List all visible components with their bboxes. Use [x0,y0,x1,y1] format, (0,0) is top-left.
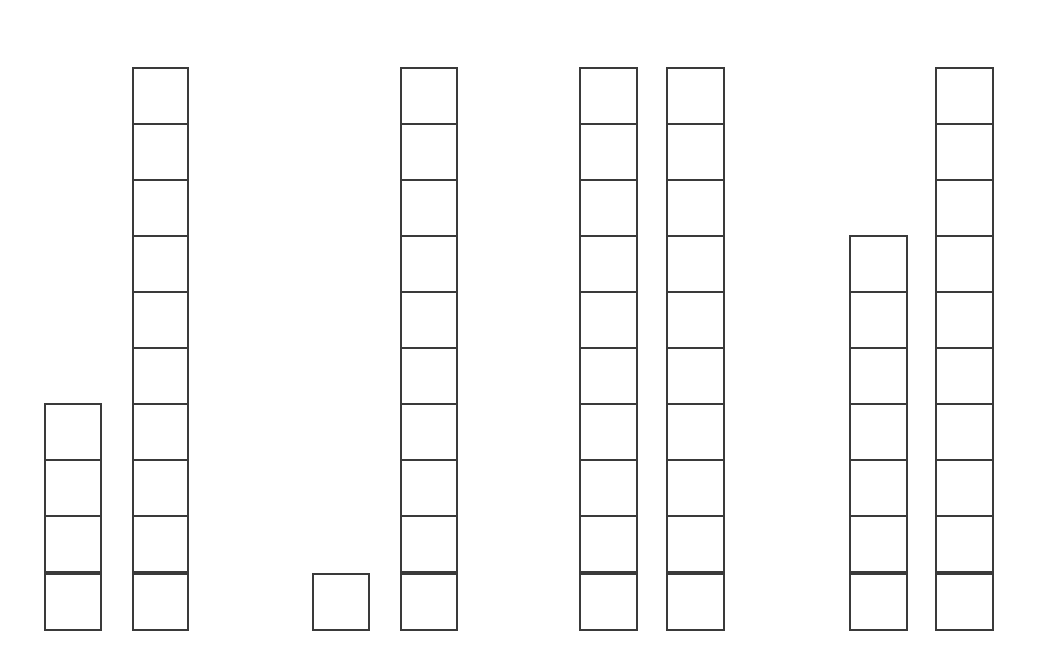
ten-rod [579,69,638,631]
unit-cube [132,573,189,631]
unit-stack [312,573,370,631]
unit-cube [44,403,102,461]
unit-cube [935,123,994,181]
unit-cube [666,573,725,631]
unit-cube [579,235,638,293]
unit-cube [849,291,908,349]
unit-cube [935,347,994,405]
unit-cube [666,235,725,293]
unit-stack [44,405,102,631]
unit-cube [579,459,638,517]
unit-cube [400,291,458,349]
unit-cube [849,515,908,573]
ten-rod [400,69,458,631]
unit-cube [132,67,189,125]
unit-cube [935,515,994,573]
ten-rod [666,69,725,631]
unit-cube [849,573,908,631]
unit-cube [666,67,725,125]
unit-cube [132,515,189,573]
unit-cube [44,459,102,517]
unit-cube [849,347,908,405]
unit-cube [400,459,458,517]
unit-cube [579,179,638,237]
unit-cube [132,123,189,181]
unit-cube [132,179,189,237]
unit-cube [579,573,638,631]
unit-cube [579,515,638,573]
unit-cube [579,403,638,461]
unit-cube [849,403,908,461]
ten-rod [132,69,189,631]
unit-cube [400,179,458,237]
unit-cube [400,515,458,573]
unit-cube [400,573,458,631]
unit-cube [579,291,638,349]
unit-stack [849,237,908,631]
unit-cube [666,459,725,517]
unit-cube [400,235,458,293]
unit-cube [935,235,994,293]
unit-cube [400,67,458,125]
unit-cube [132,291,189,349]
unit-cube [666,291,725,349]
unit-cube [400,123,458,181]
unit-cube [132,235,189,293]
unit-cube [666,347,725,405]
unit-cube [666,403,725,461]
unit-cube [849,459,908,517]
unit-cube [132,403,189,461]
unit-cube [666,179,725,237]
unit-cube [935,67,994,125]
unit-cube [935,573,994,631]
unit-cube [400,403,458,461]
unit-cube [935,291,994,349]
unit-cube [935,179,994,237]
unit-cube [666,123,725,181]
unit-cube [935,459,994,517]
unit-cube [132,347,189,405]
ten-rod [935,69,994,631]
unit-cube [579,123,638,181]
unit-cube [44,515,102,573]
unit-cube [132,459,189,517]
unit-cube [666,515,725,573]
unit-cube [312,573,370,631]
unit-cube [935,403,994,461]
unit-cube [849,235,908,293]
unit-cube [44,573,102,631]
unit-cube [579,347,638,405]
unit-cube [400,347,458,405]
unit-cube [579,67,638,125]
